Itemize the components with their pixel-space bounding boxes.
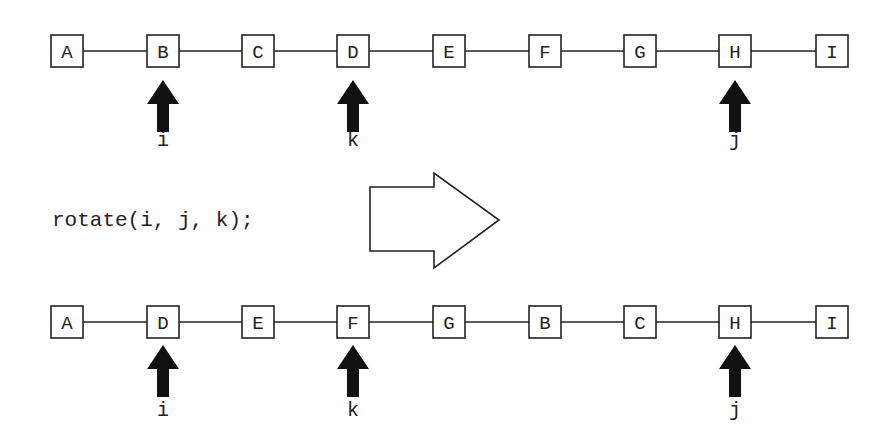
- right-arrow-outline-icon: [370, 173, 499, 268]
- list-node: H: [719, 35, 751, 67]
- node-label: I: [826, 313, 837, 335]
- node-label: G: [443, 313, 454, 335]
- list-node: I: [816, 35, 848, 67]
- list-node: B: [147, 35, 179, 67]
- pointer-i: i: [147, 80, 179, 152]
- node-label: B: [539, 313, 550, 335]
- pointer-j: j: [719, 80, 751, 152]
- up-arrow-icon: [147, 345, 179, 397]
- node-label: B: [157, 42, 168, 64]
- list-node: D: [147, 306, 179, 338]
- list-before-rotate: ABCDEFGHIikj: [51, 35, 848, 152]
- node-label: A: [61, 313, 73, 335]
- list-node: G: [433, 306, 465, 338]
- list-node: I: [816, 306, 848, 338]
- pointer-label: i: [157, 399, 169, 422]
- pointer-label: j: [729, 399, 741, 422]
- pointer-label: i: [157, 129, 169, 152]
- up-arrow-icon: [719, 345, 751, 397]
- up-arrow-icon: [337, 80, 369, 132]
- list-node: G: [624, 35, 656, 67]
- node-label: E: [443, 42, 454, 64]
- pointer-label: j: [729, 129, 741, 152]
- up-arrow-icon: [147, 80, 179, 132]
- list-node: A: [51, 35, 83, 67]
- list-after-rotate: ADEFGBCHIikj: [51, 306, 848, 422]
- node-label: G: [634, 42, 645, 64]
- node-label: C: [252, 42, 263, 64]
- list-node: F: [529, 35, 561, 67]
- up-arrow-icon: [719, 80, 751, 132]
- list-node: E: [242, 306, 274, 338]
- node-label: H: [729, 313, 740, 335]
- rotate-diagram: ABCDEFGHIikj rotate(i, j, k); ADEFGBCHIi…: [0, 0, 895, 445]
- list-node: E: [433, 35, 465, 67]
- list-node: C: [624, 306, 656, 338]
- node-label: H: [729, 42, 740, 64]
- node-label: A: [61, 42, 73, 64]
- node-label: D: [157, 313, 168, 335]
- list-node: C: [242, 35, 274, 67]
- pointer-k: k: [337, 80, 369, 152]
- list-node: A: [51, 306, 83, 338]
- node-label: D: [347, 42, 358, 64]
- pointer-label: k: [347, 399, 359, 422]
- node-label: F: [539, 42, 550, 64]
- pointer-label: k: [347, 129, 359, 152]
- pointer-k: k: [337, 345, 369, 422]
- list-node: B: [529, 306, 561, 338]
- list-node: H: [719, 306, 751, 338]
- up-arrow-icon: [337, 345, 369, 397]
- pointer-i: i: [147, 345, 179, 422]
- node-label: E: [252, 313, 263, 335]
- node-label: C: [634, 313, 645, 335]
- list-node: D: [337, 35, 369, 67]
- node-label: F: [347, 313, 358, 335]
- list-node: F: [337, 306, 369, 338]
- code-rotate-call: rotate(i, j, k);: [52, 209, 254, 232]
- pointer-j: j: [719, 345, 751, 422]
- node-label: I: [826, 42, 837, 64]
